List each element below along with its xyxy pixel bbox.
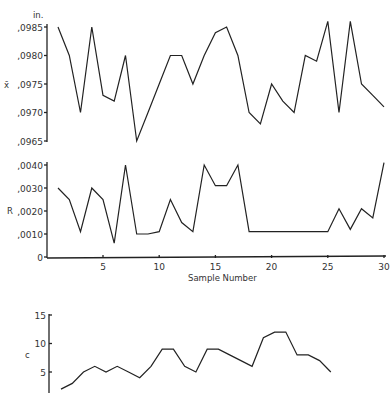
x-tick-label: 10 xyxy=(153,262,165,272)
y-tick-label: 0 xyxy=(37,253,43,263)
r-y-ticks: 0,0010,0020,0030,0040 xyxy=(17,161,47,263)
x-tick-label: 5 xyxy=(100,262,106,272)
x-tick-label: 30 xyxy=(378,262,390,272)
y-tick-label: ,0030 xyxy=(17,184,43,194)
r-chart: R 0,0010,0020,0030,0040 51015202530 Samp… xyxy=(7,161,390,284)
xbar-unit-label: in. xyxy=(33,10,43,20)
xbar-chart: in. x̄ ,0965,0970,0975,0980,0985 xyxy=(4,10,384,147)
y-tick-label: ,0985 xyxy=(17,23,43,33)
y-tick-label: 15 xyxy=(35,311,46,321)
r-series-line xyxy=(58,163,384,244)
xbar-series-line xyxy=(58,21,384,141)
y-tick-label: ,0040 xyxy=(17,161,43,171)
c-chart: c 51015 xyxy=(25,311,331,393)
c-series-line xyxy=(61,332,331,389)
xbar-y-axis-label: x̄ xyxy=(4,80,9,90)
xbar-y-ticks: ,0965,0970,0975,0980,0985 xyxy=(17,23,47,147)
c-y-axis-label: c xyxy=(25,350,30,360)
y-tick-label: ,0975 xyxy=(17,80,43,90)
x-axis-label: Sample Number xyxy=(188,273,257,283)
y-tick-label: ,0980 xyxy=(17,51,43,61)
x-tick-label: 15 xyxy=(210,262,221,272)
r-y-axis-label: R xyxy=(7,206,13,216)
y-tick-label: 10 xyxy=(35,339,47,349)
y-tick-label: ,0010 xyxy=(17,230,43,240)
control-charts: in. x̄ ,0965,0970,0975,0980,0985 R 0,001… xyxy=(0,0,392,393)
y-tick-label: ,0020 xyxy=(17,207,43,217)
x-tick-label: 20 xyxy=(266,262,278,272)
y-tick-label: ,0970 xyxy=(17,108,43,118)
x-tick-label: 25 xyxy=(322,262,333,272)
y-tick-label: ,0965 xyxy=(17,137,43,147)
r-x-axis xyxy=(47,256,386,258)
y-tick-label: 5 xyxy=(40,368,46,378)
